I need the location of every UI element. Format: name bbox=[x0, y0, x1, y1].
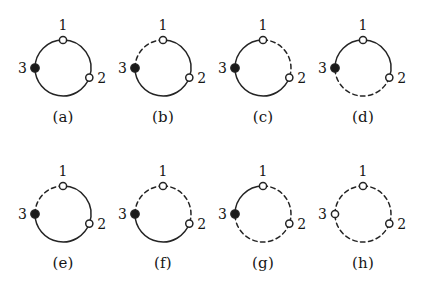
graph-b: 123 bbox=[113, 6, 213, 114]
diagram-panel: 123 (c) bbox=[213, 6, 313, 152]
edge-1-2 bbox=[263, 186, 291, 224]
node-label-2: 2 bbox=[297, 216, 306, 232]
edge-3-1 bbox=[335, 186, 363, 214]
node-label-3: 3 bbox=[118, 60, 127, 76]
figure-row-bottom: 123 (e) 123 (f) 123 (g) 123 (h) bbox=[0, 152, 426, 292]
diagram-panel: 123 (g) bbox=[213, 152, 313, 292]
edge-1-2 bbox=[363, 40, 391, 78]
node-label-1: 1 bbox=[359, 163, 368, 179]
diagram-panel: 123 (b) bbox=[113, 6, 213, 152]
edge-2-3 bbox=[335, 214, 389, 242]
node-2 bbox=[86, 220, 93, 227]
node-3 bbox=[31, 210, 40, 219]
node-2 bbox=[86, 74, 93, 81]
node-label-3: 3 bbox=[18, 60, 27, 76]
edge-2-3 bbox=[135, 68, 189, 96]
node-label-2: 2 bbox=[397, 216, 406, 232]
edge-1-2 bbox=[163, 40, 191, 78]
node-3 bbox=[131, 210, 140, 219]
graph-a: 123 bbox=[13, 6, 113, 114]
node-2 bbox=[186, 74, 193, 81]
node-label-2: 2 bbox=[197, 70, 206, 86]
node-label-2: 2 bbox=[397, 70, 406, 86]
node-3 bbox=[131, 64, 140, 73]
cycle-graph: 123 bbox=[113, 152, 213, 260]
node-label-1: 1 bbox=[59, 163, 68, 179]
edge-3-1 bbox=[235, 186, 263, 214]
edge-2-3 bbox=[35, 68, 89, 96]
diagram-panel: 123 (a) bbox=[13, 6, 113, 152]
node-1 bbox=[259, 36, 266, 43]
node-label-2: 2 bbox=[297, 70, 306, 86]
node-label-3: 3 bbox=[318, 206, 327, 222]
figure-container: 123 (a) 123 (b) 123 (c) 123 (d) 123 (e) … bbox=[0, 0, 426, 292]
diagram-panel: 123 (d) bbox=[313, 6, 413, 152]
edge-3-1 bbox=[35, 186, 63, 214]
graph-h: 123 bbox=[313, 152, 413, 260]
figure-row-top: 123 (a) 123 (b) 123 (c) 123 (d) bbox=[0, 6, 426, 152]
node-1 bbox=[259, 182, 266, 189]
edge-3-1 bbox=[235, 40, 263, 68]
edge-2-3 bbox=[235, 214, 289, 242]
edge-3-1 bbox=[35, 40, 63, 68]
node-2 bbox=[386, 74, 393, 81]
node-label-3: 3 bbox=[118, 206, 127, 222]
edge-1-2 bbox=[363, 186, 391, 224]
node-label-1: 1 bbox=[259, 17, 268, 33]
cycle-graph: 123 bbox=[313, 6, 413, 114]
node-2 bbox=[286, 74, 293, 81]
node-label-1: 1 bbox=[359, 17, 368, 33]
node-2 bbox=[286, 220, 293, 227]
node-3 bbox=[331, 64, 340, 73]
edge-3-1 bbox=[135, 186, 163, 214]
cycle-graph: 123 bbox=[213, 6, 313, 114]
cycle-graph: 123 bbox=[313, 152, 413, 260]
node-label-1: 1 bbox=[259, 163, 268, 179]
node-1 bbox=[359, 36, 366, 43]
cycle-graph: 123 bbox=[113, 6, 213, 114]
cycle-graph: 123 bbox=[13, 152, 113, 260]
edge-2-3 bbox=[335, 68, 389, 96]
edge-3-1 bbox=[135, 40, 163, 68]
node-3 bbox=[231, 64, 240, 73]
cycle-graph: 123 bbox=[13, 6, 113, 114]
diagram-panel: 123 (e) bbox=[13, 152, 113, 292]
node-2 bbox=[386, 220, 393, 227]
edge-3-1 bbox=[335, 40, 363, 68]
node-1 bbox=[159, 36, 166, 43]
node-3 bbox=[231, 210, 240, 219]
node-1 bbox=[59, 36, 66, 43]
node-label-3: 3 bbox=[218, 60, 227, 76]
diagram-panel: 123 (h) bbox=[313, 152, 413, 292]
node-label-1: 1 bbox=[159, 17, 168, 33]
node-label-3: 3 bbox=[18, 206, 27, 222]
node-3 bbox=[331, 210, 338, 217]
edge-1-2 bbox=[63, 40, 91, 78]
edge-2-3 bbox=[235, 68, 289, 96]
node-label-1: 1 bbox=[159, 163, 168, 179]
edge-1-2 bbox=[263, 40, 291, 78]
node-label-2: 2 bbox=[97, 216, 106, 232]
graph-d: 123 bbox=[313, 6, 413, 114]
edge-1-2 bbox=[163, 186, 191, 224]
node-label-2: 2 bbox=[97, 70, 106, 86]
node-2 bbox=[186, 220, 193, 227]
node-label-3: 3 bbox=[318, 60, 327, 76]
node-label-2: 2 bbox=[197, 216, 206, 232]
graph-c: 123 bbox=[213, 6, 313, 114]
node-1 bbox=[59, 182, 66, 189]
cycle-graph: 123 bbox=[213, 152, 313, 260]
node-1 bbox=[359, 182, 366, 189]
diagram-panel: 123 (f) bbox=[113, 152, 213, 292]
node-1 bbox=[159, 182, 166, 189]
edge-2-3 bbox=[135, 214, 189, 242]
graph-f: 123 bbox=[113, 152, 213, 260]
node-label-1: 1 bbox=[59, 17, 68, 33]
edge-2-3 bbox=[35, 214, 89, 242]
node-label-3: 3 bbox=[218, 206, 227, 222]
edge-1-2 bbox=[63, 186, 91, 224]
graph-e: 123 bbox=[13, 152, 113, 260]
graph-g: 123 bbox=[213, 152, 313, 260]
node-3 bbox=[31, 64, 40, 73]
